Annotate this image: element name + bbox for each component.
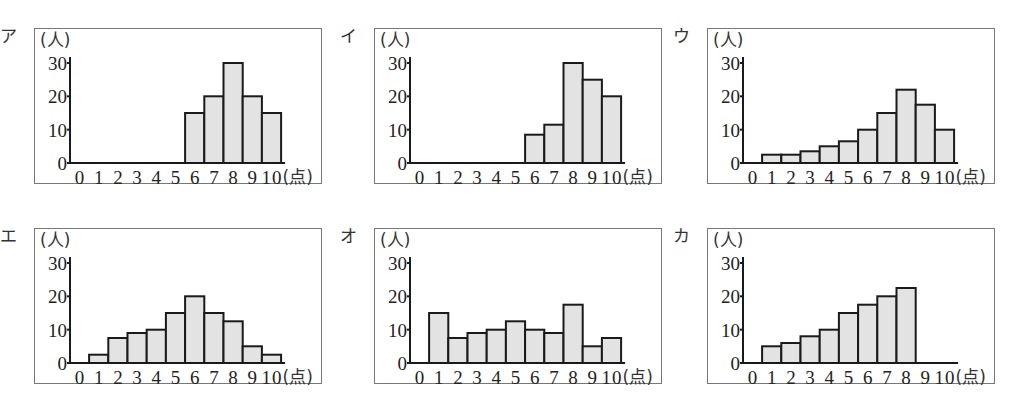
histogram-bar (204, 96, 223, 163)
histogram-bar (916, 105, 935, 163)
histogram-bar (166, 313, 185, 363)
histogram-bar (564, 305, 583, 363)
x-tick-label: 1 (767, 167, 777, 188)
y-tick-label: 30 (48, 253, 67, 274)
histogram-bar (89, 355, 108, 363)
y-tick-label: 20 (388, 286, 407, 307)
y-axis-unit-label: (人) (380, 230, 410, 250)
y-tick-label: 10 (388, 120, 407, 141)
x-tick-label: 6 (863, 167, 873, 188)
x-tick-label: 6 (530, 167, 540, 188)
histogram-bar (602, 338, 621, 363)
x-tick-label: 2 (786, 367, 796, 388)
histogram-bar (820, 146, 839, 163)
y-tick-label: 30 (388, 253, 407, 274)
x-tick-label: 3 (132, 367, 142, 388)
x-tick-label: 0 (748, 367, 758, 388)
y-tick-label: 20 (388, 86, 407, 107)
x-tick-label: 0 (748, 167, 758, 188)
x-tick-label: 5 (511, 167, 521, 188)
x-tick-label: 10 (602, 167, 622, 188)
histogram-bar (487, 330, 506, 363)
histogram-bar (224, 63, 243, 163)
x-tick-label: 9 (588, 167, 598, 188)
y-tick-label: 0 (58, 353, 68, 374)
y-tick-label: 30 (721, 53, 740, 74)
histogram-bar (243, 346, 262, 363)
x-tick-label: 7 (209, 367, 219, 388)
y-tick-label: 10 (388, 320, 407, 341)
x-tick-label: 6 (530, 367, 540, 388)
y-tick-label: 30 (388, 53, 407, 74)
histogram-bar (224, 321, 243, 363)
histogram-bar (506, 321, 525, 363)
x-tick-label: 6 (863, 367, 873, 388)
histogram-plot: (人)0102030012345678910(点) (673, 200, 1009, 390)
histogram-bar (781, 343, 800, 363)
y-tick-label: 20 (721, 86, 740, 107)
histogram-bar (877, 113, 896, 163)
y-axis-unit-label: (人) (40, 230, 70, 250)
histogram-plot: (人)0102030012345678910(点) (0, 200, 336, 390)
histogram-bar (839, 141, 858, 163)
x-tick-label: 2 (453, 367, 463, 388)
y-axis-unit-label: (人) (713, 30, 743, 50)
x-tick-label: 8 (568, 167, 578, 188)
histogram-bar (468, 333, 487, 363)
x-tick-label: 1 (434, 367, 444, 388)
x-tick-label: 10 (262, 367, 282, 388)
histogram-bar (544, 333, 563, 363)
x-tick-label: 1 (767, 367, 777, 388)
x-axis-unit-label: (点) (623, 367, 653, 387)
histogram-bar (185, 296, 204, 363)
y-tick-label: 10 (48, 320, 67, 341)
histogram-bar (762, 346, 781, 363)
x-tick-label: 5 (844, 167, 854, 188)
histogram-bar (877, 296, 896, 363)
histogram-bar (128, 333, 147, 363)
x-tick-label: 10 (935, 367, 955, 388)
histogram-plot: (人)0102030012345678910(点) (673, 0, 1009, 190)
x-tick-label: 8 (228, 367, 238, 388)
x-tick-label: 10 (935, 167, 955, 188)
x-tick-label: 1 (94, 167, 104, 188)
x-tick-label: 8 (901, 367, 911, 388)
x-tick-label: 7 (882, 167, 892, 188)
histogram-plot: (人)0102030012345678910(点) (340, 0, 676, 190)
histogram-bar (897, 288, 916, 363)
histogram-bar (858, 130, 877, 163)
y-tick-label: 0 (58, 153, 68, 174)
x-tick-label: 0 (75, 367, 85, 388)
histogram-plot: (人)0102030012345678910(点) (0, 0, 336, 190)
x-tick-label: 8 (568, 367, 578, 388)
histogram-bar (544, 125, 563, 163)
histogram-bar (839, 313, 858, 363)
x-tick-label: 3 (472, 167, 482, 188)
x-tick-label: 4 (825, 367, 835, 388)
x-tick-label: 4 (152, 167, 162, 188)
histogram-bar (429, 313, 448, 363)
x-tick-label: 0 (75, 167, 85, 188)
x-tick-label: 2 (453, 167, 463, 188)
histogram-bar (762, 155, 781, 163)
histogram-plot: (人)0102030012345678910(点) (340, 200, 676, 390)
histogram-panel-3: ウ(人)0102030012345678910(点) (673, 0, 1009, 190)
y-tick-label: 0 (398, 353, 408, 374)
x-axis-unit-label: (点) (956, 367, 986, 387)
histogram-bar (820, 330, 839, 363)
x-tick-label: 10 (262, 167, 282, 188)
x-tick-label: 5 (171, 167, 181, 188)
histogram-bar (525, 330, 544, 363)
x-tick-label: 2 (113, 367, 123, 388)
histogram-bar (583, 346, 602, 363)
histogram-bar (108, 338, 127, 363)
x-tick-label: 4 (492, 367, 502, 388)
histogram-bar (243, 96, 262, 163)
x-axis-unit-label: (点) (623, 167, 653, 187)
histogram-bar (602, 96, 621, 163)
y-axis-unit-label: (人) (713, 230, 743, 250)
y-tick-label: 0 (731, 353, 741, 374)
x-tick-label: 6 (190, 367, 200, 388)
x-tick-label: 2 (786, 167, 796, 188)
x-tick-label: 4 (152, 367, 162, 388)
